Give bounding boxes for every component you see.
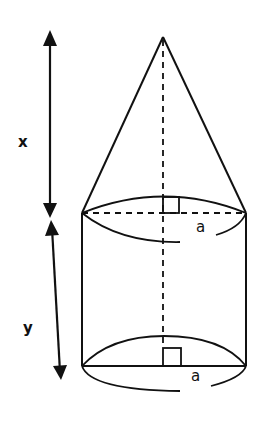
- cylinder-height-arrow: [45, 220, 67, 380]
- bottom-right-angle-marker: [163, 348, 181, 366]
- cone-cylinder-diagram: x y a a: [0, 0, 260, 422]
- top-right-angle-marker: [163, 197, 179, 213]
- label-y: y: [23, 319, 33, 337]
- cone-outline: [82, 37, 246, 213]
- cylinder-outline: [82, 213, 246, 366]
- cone-height-arrow: [43, 30, 57, 218]
- label-top-radius: a: [196, 218, 205, 236]
- top-base-ellipse: [82, 197, 246, 243]
- label-bottom-radius: a: [191, 367, 200, 385]
- label-x: x: [18, 133, 28, 151]
- bottom-base-ellipse: [82, 336, 246, 391]
